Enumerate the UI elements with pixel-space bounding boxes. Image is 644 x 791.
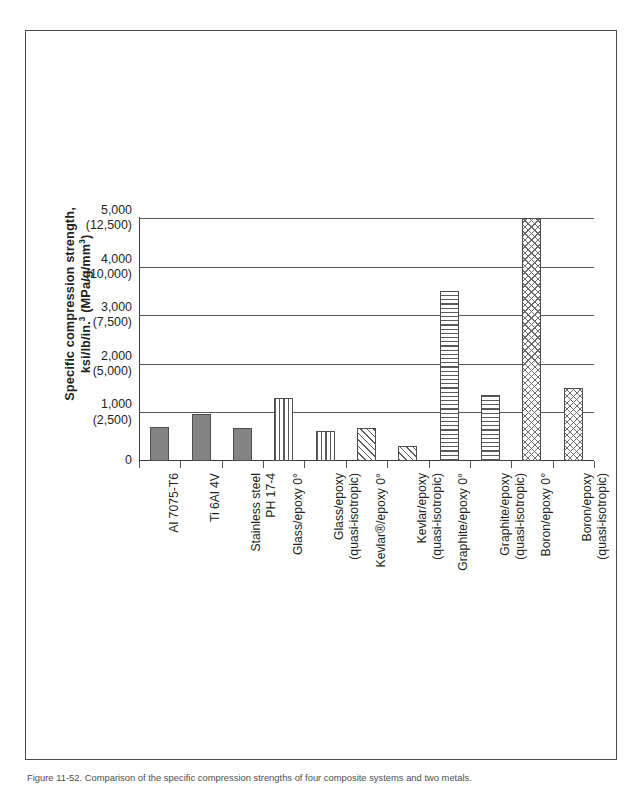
plot-inner: 01,000(2,500)2,000(5,000)3,000(7,500)4,0… [139, 218, 594, 461]
x-axis-label-line-1: Boron/epoxy 0° [539, 473, 554, 623]
bar [357, 428, 376, 461]
y-tick-secondary: (10,000) [86, 267, 132, 282]
x-axis-tick [594, 461, 595, 468]
x-axis-tick [222, 461, 223, 468]
x-axis-tick [511, 461, 512, 468]
x-axis-label: Kevlar®/epoxy 0° [374, 473, 389, 623]
x-axis-label-line-1: Boron/epoxy [580, 473, 595, 623]
y-tick-secondary: (12,500) [86, 218, 132, 233]
bar [481, 395, 500, 461]
x-axis-label-line-2: (quasi-isotropic) [596, 473, 611, 623]
y-tick-secondary: (7,500) [93, 315, 132, 330]
x-axis-label-line-1: Ti 6Al 4V [208, 473, 223, 623]
x-axis-label-line-2: PH 17-4 [265, 473, 280, 623]
y-axis-unit-exp2: 3 [78, 239, 87, 244]
y-tick-primary: 1,000 [93, 397, 132, 412]
x-axis-label: Graphite/epoxy(quasi-isotropic) [498, 473, 529, 623]
bar [564, 388, 583, 461]
y-tick-primary: 3,000 [93, 300, 132, 315]
y-axis-unit-ksi: ksi/lb/in. [78, 321, 93, 373]
y-tick-label-3000: 3,000(7,500) [93, 300, 132, 330]
y-tick-label-5000: 5,000(12,500) [86, 203, 132, 233]
bar [316, 431, 335, 461]
x-axis-label: Stainless steelPH 17-4 [249, 473, 280, 623]
bar [150, 427, 169, 461]
bar [274, 398, 293, 461]
bar [522, 218, 541, 461]
y-tick-primary: 0 [125, 453, 132, 468]
x-axis-tick [180, 461, 181, 468]
y-axis-unit-exp1: 3 [78, 317, 87, 322]
x-axis-tick [139, 461, 140, 468]
y-tick-label-4000: 4,000(10,000) [86, 251, 132, 281]
x-axis-tick [429, 461, 430, 468]
x-axis-label-line-2: (quasi-isotropic) [348, 473, 363, 623]
x-axis-label-line-1: Al 7075-T6 [167, 473, 182, 623]
x-axis-label: Al 7075-T6 [167, 473, 182, 623]
x-axis-label-line-1: Graphite/epoxy 0° [456, 473, 471, 623]
x-axis-label: Graphite/epoxy 0° [456, 473, 471, 623]
y-tick-secondary: (5,000) [93, 364, 132, 379]
x-axis-tick [553, 461, 554, 468]
x-axis-label-line-1: Kevlar®/epoxy 0° [374, 473, 389, 623]
x-axis-label-line-1: Glass/epoxy [332, 473, 347, 623]
x-axis-tick [346, 461, 347, 468]
bar [398, 446, 417, 461]
y-tick-label-2000: 2,000(5,000) [93, 349, 132, 379]
y-tick-primary: 4,000 [86, 251, 132, 266]
y-tick-secondary: (2,500) [93, 412, 132, 427]
bar [192, 414, 211, 461]
bar [233, 428, 252, 461]
plot-area: 01,000(2,500)2,000(5,000)3,000(7,500)4,0… [139, 218, 594, 461]
x-axis-label-line-2: (quasi-isotropic) [513, 473, 528, 623]
x-axis-label: Glass/epoxy 0° [291, 473, 306, 623]
figure-frame: Specific compression strength, ksi/lb/in… [25, 30, 617, 760]
x-axis-label-line-1: Kevlar/epoxy [415, 473, 430, 623]
y-axis-unit-close: ) [78, 235, 93, 239]
bar [440, 291, 459, 461]
y-tick-label-0: 0 [125, 453, 132, 468]
y-tick-label-1000: 1,000(2,500) [93, 397, 132, 427]
bar-chart: Specific compression strength, ksi/lb/in… [26, 31, 618, 761]
figure-caption: Figure 11-52. Comparison of the specific… [27, 772, 627, 784]
bars-group [139, 218, 594, 461]
x-axis-tick [263, 461, 264, 468]
y-axis-title-line1: Specific compression strength, [62, 207, 78, 401]
x-axis-tick [304, 461, 305, 468]
x-axis-label: Boron/epoxy 0° [539, 473, 554, 623]
x-axis-label-line-1: Graphite/epoxy [498, 473, 513, 623]
x-axis-tick [387, 461, 388, 468]
x-axis-label-line-1: Stainless steel [249, 473, 264, 623]
x-axis-label-line-1: Glass/epoxy 0° [291, 473, 306, 623]
x-axis-label: Kevlar/epoxy(quasi-isotropic) [415, 473, 446, 623]
x-axis-label: Ti 6Al 4V [208, 473, 223, 623]
x-axis-label-line-2: (quasi-isotropic) [430, 473, 445, 623]
y-tick-primary: 5,000 [86, 203, 132, 218]
y-tick-primary: 2,000 [93, 349, 132, 364]
x-axis-label: Glass/epoxy(quasi-isotropic) [332, 473, 363, 623]
x-axis-tick [470, 461, 471, 468]
x-axis-label: Boron/epoxy(quasi-isotropic) [580, 473, 611, 623]
